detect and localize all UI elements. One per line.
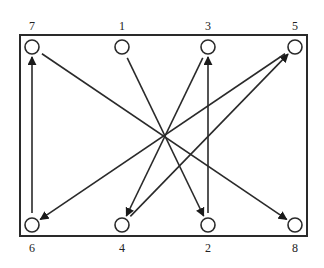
node-3 xyxy=(201,40,215,54)
edge-layer xyxy=(32,54,288,220)
node-4 xyxy=(115,218,129,232)
node-label-1: 1 xyxy=(119,19,125,33)
edge-5-to-6 xyxy=(40,54,285,220)
node-5 xyxy=(288,40,302,54)
node-label-2: 2 xyxy=(205,241,211,255)
edge-4-to-5 xyxy=(130,54,288,216)
node-label-3: 3 xyxy=(205,19,211,33)
node-7 xyxy=(25,40,39,54)
node-label-5: 5 xyxy=(292,19,298,33)
node-8 xyxy=(288,218,302,232)
node-6 xyxy=(25,218,39,232)
node-label-6: 6 xyxy=(29,241,35,255)
node-label-4: 4 xyxy=(119,241,125,255)
node-2 xyxy=(201,218,215,232)
node-1 xyxy=(115,40,129,54)
node-label-7: 7 xyxy=(29,19,35,33)
edge-7-to-8 xyxy=(42,54,287,220)
graph-diagram: 71356428 xyxy=(0,0,324,268)
node-label-8: 8 xyxy=(292,241,298,255)
label-layer: 71356428 xyxy=(29,19,298,255)
